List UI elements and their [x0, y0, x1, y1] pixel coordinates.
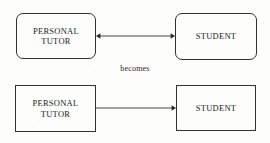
node-student-after: STUDENT: [176, 85, 256, 131]
node-label: PERSONAL TUTOR: [33, 26, 79, 47]
caption-becomes: becomes: [100, 64, 170, 73]
node-label: STUDENT: [196, 103, 236, 114]
node-student-before: STUDENT: [175, 13, 257, 60]
node-label: STUDENT: [196, 31, 236, 42]
node-personal-tutor-before: PERSONAL TUTOR: [16, 13, 96, 59]
connector-unidirectional-arrow: [96, 102, 176, 114]
arrow-head-left-icon: [96, 33, 100, 39]
node-label: PERSONAL TUTOR: [33, 98, 79, 119]
diagram-canvas: PERSONAL TUTOR STUDENT becomes PERSONAL …: [0, 0, 270, 143]
node-personal-tutor-after: PERSONAL TUTOR: [15, 85, 96, 132]
connector-bidirectional-arrow: [96, 30, 175, 42]
